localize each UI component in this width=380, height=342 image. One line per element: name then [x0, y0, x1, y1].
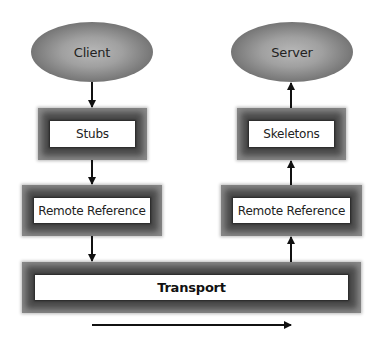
connector-arrows: [0, 0, 380, 342]
